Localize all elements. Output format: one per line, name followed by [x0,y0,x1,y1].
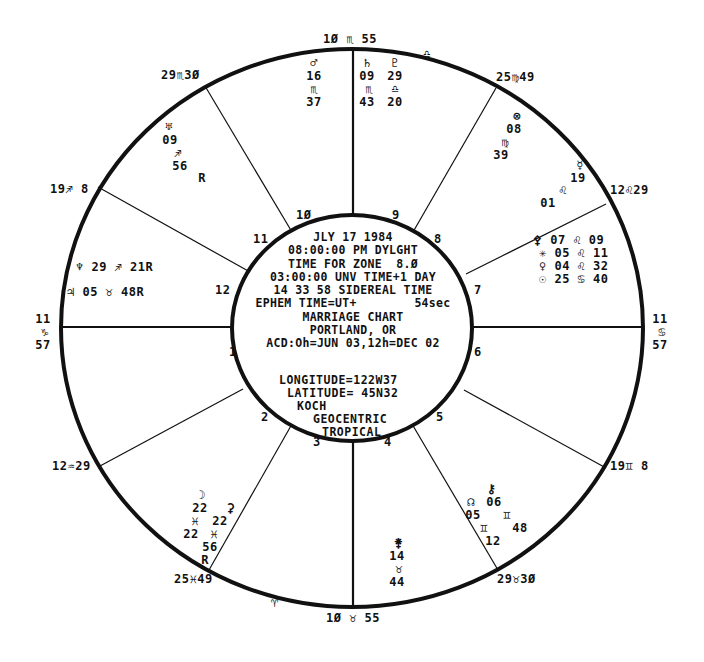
neptune-row: ♆ 29 ♐ 21R [76,261,153,274]
cusp-12-label: 19♐ 8 [50,183,89,196]
house-number-10: 1Ø [296,209,311,222]
pluto-minute: 20 [383,96,407,109]
cusp-9-label: 25♍49 [496,71,535,84]
cusp-5-label: 29♉3Ø [497,573,536,586]
chart-ephem-time: EPHEM TIME=UT+ 54sec [232,297,474,310]
cusp-ic-label: 1Ø ♉ 55 [326,612,380,625]
house-number-6: 6 [474,346,482,359]
intercepted-libra-glyph: ♎ [423,48,431,61]
chart-info-block: JLY 17 1984 08:00:00 PM DYLGHT TIME FOR … [232,231,474,351]
chart-universal-time: 03:00:00 UNV TIME+1 DAY [232,271,474,284]
sun-row: ☉ 25 ♋ 40 [539,273,609,286]
mars-minute: 37 [302,96,326,109]
chart-acd: ACD:Oh=JUN 03,12h=DEC 02 [232,337,474,350]
fortune-minute: 39 [489,149,513,162]
house-number-5: 5 [436,411,444,424]
cusp-6-line [464,390,606,468]
cusp-9-line [413,88,496,232]
node-minute: 12 [481,535,505,548]
uranus-retrograde: R [190,172,214,185]
cusp-2-line [100,389,243,466]
uranus-minute: 56 [168,160,192,173]
cusp-11-label: 29♏3Ø [161,69,200,82]
intercepted-aries-glyph: ♈ [271,597,279,610]
chart-time-zone: TIME FOR ZONE 8.Ø [232,258,474,271]
house-number-7: 7 [474,284,482,297]
cusp-asc-minute: 57 [31,339,55,352]
cusp-2-label: 12♒29 [52,460,91,473]
moon-degree-second: 22 [179,528,203,541]
chart-sidereal-time: 14 33 58 SIDEREAL TIME [232,284,474,297]
house-number-9: 9 [392,209,400,222]
cusp-11-line [205,86,292,232]
chart-date: JLY 17 1984 [232,231,474,244]
cusp-dsc-minute: 57 [648,339,672,352]
mercury-minute: 01 [536,197,560,210]
ceres-retrograde: R [193,554,217,567]
chart-local-time: 08:00:00 PM DYLGHT [232,244,474,257]
chart-title: MARRIAGE CHART [232,311,474,324]
cusp-mc-label: 1Ø ♏ 55 [323,33,377,46]
house-number-3: 3 [313,436,321,449]
cusp-8-label: 12♌29 [610,184,649,197]
house-number-12: 12 [215,284,230,297]
house-number-4: 4 [384,436,392,449]
jupiter-row: ♃ 05 ♉ 48R [67,286,144,299]
cusp-6-label: 19♊ 8 [610,460,649,473]
chart-location: PORTLAND, OR [232,324,474,337]
chiron-minute: 48 [508,522,532,535]
cusp-3-label: 25♓49 [174,573,213,586]
house-number-2: 2 [261,411,269,424]
saturn-minute: 43 [355,96,379,109]
chart-zodiac: TROPICAL [322,426,381,439]
juno-minute: 44 [385,576,409,589]
